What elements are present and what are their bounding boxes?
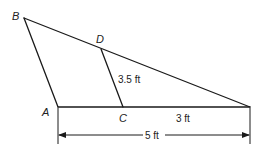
point-label-C: C	[119, 112, 127, 124]
triangle-diagram: B D A C 3.5 ft 3 ft 5 ft	[0, 0, 263, 153]
length-label-DC: 3.5 ft	[118, 74, 140, 85]
length-label-total: 5 ft	[145, 130, 159, 141]
segment-B-to-right-vertex	[24, 18, 250, 107]
segment-BA	[24, 18, 58, 107]
point-label-A: A	[41, 106, 49, 118]
length-label-C-right: 3 ft	[176, 113, 190, 124]
point-label-B: B	[12, 10, 19, 22]
point-label-D: D	[96, 33, 104, 45]
